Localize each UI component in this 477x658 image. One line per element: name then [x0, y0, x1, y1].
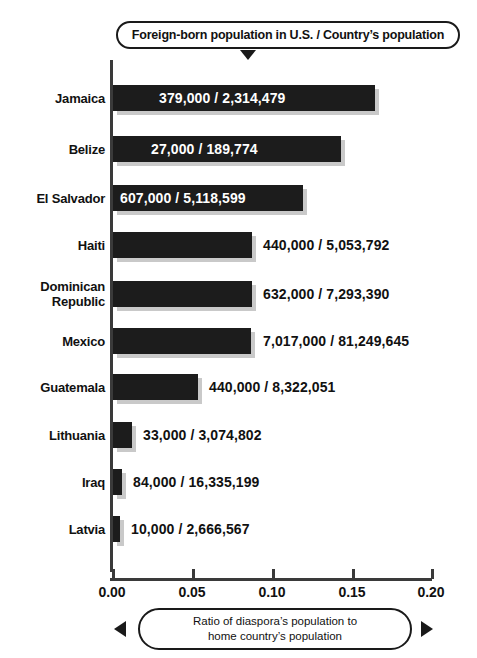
bar-row: El Salvador607,000 / 5,118,599: [0, 185, 477, 211]
bar-row: Belize27,000 / 189,774: [0, 136, 477, 162]
bar-category-label: Lithuania: [49, 428, 105, 443]
bar-value-label: 10,000 / 2,666,567: [131, 516, 250, 542]
bar-category-label: El Salvador: [36, 191, 105, 206]
axis-caption-pill: Ratio of diaspora’s population to home c…: [138, 608, 412, 650]
bar: [113, 469, 122, 495]
bar-value-label: 33,000 / 3,074,802: [143, 422, 262, 448]
bar-category-label: Jamaica: [55, 91, 105, 106]
bar-value-label: 84,000 / 16,335,199: [133, 469, 259, 495]
bar-fill: [113, 232, 252, 258]
bar-category-label: Latvia: [69, 522, 105, 537]
x-axis-tick-label: 0.15: [338, 584, 365, 600]
bar-category-label: Mexico: [62, 334, 105, 349]
bar-fill: [113, 422, 132, 448]
x-axis-tick: [112, 569, 115, 579]
axis-caption-line-2: home country’s population: [208, 629, 342, 644]
bar-value-label: 27,000 / 189,774: [151, 136, 258, 162]
bar-category-label: Haiti: [78, 238, 105, 253]
bar: [113, 232, 252, 258]
bar-row: Dominican Republic632,000 / 7,293,390: [0, 281, 477, 307]
bar: [113, 374, 198, 400]
triangle-left-icon: [114, 621, 126, 637]
bar-value-label: 440,000 / 8,322,051: [209, 374, 335, 400]
bar-fill: [113, 374, 198, 400]
x-axis-tick: [192, 569, 195, 579]
bar-row: Jamaica379,000 / 2,314,479: [0, 85, 477, 111]
x-axis-tick: [272, 569, 275, 579]
bar-fill: [113, 328, 251, 354]
plot-area: Jamaica379,000 / 2,314,479Belize27,000 /…: [0, 58, 477, 570]
bar-row: Iraq84,000 / 16,335,199: [0, 469, 477, 495]
bar-category-label: Iraq: [82, 475, 105, 490]
axis-caption-line-1: Ratio of diaspora’s population to: [193, 614, 357, 629]
x-axis-tick-label: 0.10: [258, 584, 285, 600]
bar: [113, 516, 120, 542]
bar-value-label: 379,000 / 2,314,479: [159, 85, 285, 111]
bar: [113, 281, 252, 307]
x-axis-tick: [352, 569, 355, 579]
x-axis-tick: [431, 569, 434, 579]
bar: [113, 422, 132, 448]
bar-category-label: Dominican Republic: [40, 279, 105, 309]
triangle-right-icon: [421, 621, 433, 637]
bar-row: Haiti440,000 / 5,053,792: [0, 232, 477, 258]
bar-value-label: 7,017,000 / 81,249,645: [263, 328, 409, 354]
bar-fill: [113, 281, 252, 307]
x-axis: [110, 569, 432, 581]
bar-fill: [113, 516, 120, 542]
bar-row: Latvia10,000 / 2,666,567: [0, 516, 477, 542]
bar-row: Mexico7,017,000 / 81,249,645: [0, 328, 477, 354]
x-axis-tick-label: 0.05: [178, 584, 205, 600]
bar-fill: [113, 469, 122, 495]
bar-category-label: Belize: [69, 142, 105, 157]
bar: [113, 328, 251, 354]
x-axis-line: [110, 578, 432, 581]
x-axis-tick-label: 0.20: [417, 584, 444, 600]
bar-chart: Foreign-born population in U.S. / Countr…: [0, 0, 477, 658]
bar-row: Guatemala440,000 / 8,322,051: [0, 374, 477, 400]
bar-category-label: Guatemala: [40, 380, 105, 395]
bar-value-label: 607,000 / 5,118,599: [120, 185, 246, 211]
bar-value-label: 632,000 / 7,293,390: [263, 281, 389, 307]
legend-pill-label: Foreign-born population in U.S. / Countr…: [132, 28, 444, 42]
bar-row: Lithuania33,000 / 3,074,802: [0, 422, 477, 448]
x-axis-tick-label: 0.00: [98, 584, 125, 600]
legend-pill: Foreign-born population in U.S. / Countr…: [116, 21, 460, 49]
bar-value-label: 440,000 / 5,053,792: [263, 232, 389, 258]
